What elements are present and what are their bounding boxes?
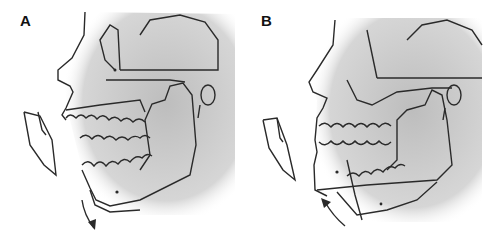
panel-a: A xyxy=(0,0,247,242)
panel-label-b: B xyxy=(261,12,272,29)
skull-jaw-closed-illustration xyxy=(247,0,494,242)
skull-jaw-open-illustration xyxy=(0,0,247,242)
panel-label-a: A xyxy=(20,12,31,29)
panel-b: B xyxy=(247,0,494,242)
